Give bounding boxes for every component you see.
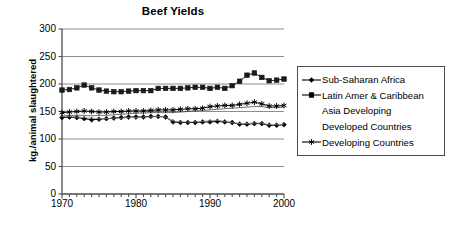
marker-diamond [178, 120, 183, 125]
series-developing-countries [59, 99, 286, 115]
marker-square [67, 87, 72, 92]
marker-square [75, 86, 80, 91]
marker-square [230, 83, 235, 88]
marker-square [149, 88, 154, 93]
marker-square [156, 86, 161, 91]
chart-figure: Beef Yields kg./animal slaughtered 300 2… [0, 0, 453, 229]
marker-square [104, 89, 109, 94]
legend-label: Developed Countries [322, 121, 412, 132]
marker-diamond [134, 115, 139, 120]
marker-square [119, 89, 124, 94]
marker-square [178, 86, 183, 91]
marker-diamond [274, 123, 279, 128]
marker-diamond [237, 122, 242, 127]
marker-square [267, 78, 272, 83]
marker-square [171, 86, 176, 91]
legend-marker-square-icon [301, 88, 322, 102]
marker-diamond [74, 115, 79, 120]
marker-square [260, 75, 265, 80]
marker-square [237, 79, 242, 84]
legend-label: Sub-Saharan Africa [322, 74, 405, 85]
marker-square [193, 85, 198, 90]
marker-square [134, 88, 139, 93]
marker-diamond [208, 120, 213, 125]
marker-square [82, 83, 87, 88]
marker-diamond [282, 122, 287, 127]
marker-square [223, 86, 228, 91]
legend-marker-none-icon [301, 104, 322, 118]
legend-item-developed-countries[interactable]: Developed Countries [301, 119, 440, 135]
marker-square [309, 93, 314, 98]
marker-square [141, 88, 146, 93]
legend-label: Developing Countries [322, 137, 414, 148]
legend-item-latin-amer-caribbean[interactable]: Latin Amer & Caribbean [301, 88, 440, 104]
marker-diamond [245, 122, 250, 127]
marker-square [186, 86, 191, 91]
marker-square [245, 73, 250, 78]
marker-diamond [200, 120, 205, 125]
marker-square [89, 86, 94, 91]
marker-square [200, 85, 205, 90]
marker-diamond [267, 123, 272, 128]
legend-item-sub-saharan-africa[interactable]: Sub-Saharan Africa [301, 72, 440, 88]
legend-label: Latin Amer & Caribbean [322, 90, 424, 101]
marker-diamond [97, 117, 102, 122]
marker-square [163, 86, 168, 91]
legend-marker-none-icon [301, 120, 322, 134]
marker-diamond [82, 116, 87, 121]
marker-square [274, 78, 279, 83]
marker-diamond [126, 115, 131, 120]
legend-label: Asia Developing [322, 105, 391, 116]
gridlines [62, 29, 284, 167]
marker-square [112, 89, 117, 94]
marker-diamond [148, 114, 153, 119]
marker-square [60, 88, 65, 93]
series-latin-amer-caribbean [60, 71, 287, 94]
marker-square [282, 77, 287, 82]
data-series-layer [59, 71, 286, 128]
x-axis-ticks [62, 194, 284, 199]
marker-square [215, 85, 220, 90]
marker-diamond [193, 120, 198, 125]
marker-diamond [185, 120, 190, 125]
marker-diamond [215, 119, 220, 124]
legend-marker-star-icon [301, 135, 322, 149]
marker-square [97, 88, 102, 93]
marker-diamond [119, 115, 124, 120]
chart-legend: Sub-Saharan AfricaLatin Amer & Caribbean… [297, 66, 445, 156]
legend-item-asia-developing[interactable]: Asia Developing [301, 103, 440, 119]
marker-square [252, 71, 257, 76]
legend-marker-diamond-icon [301, 73, 322, 87]
marker-diamond [252, 121, 257, 126]
marker-square [208, 86, 213, 91]
legend-item-developing-countries[interactable]: Developing Countries [301, 134, 440, 150]
marker-diamond [309, 77, 314, 82]
marker-square [126, 89, 131, 94]
